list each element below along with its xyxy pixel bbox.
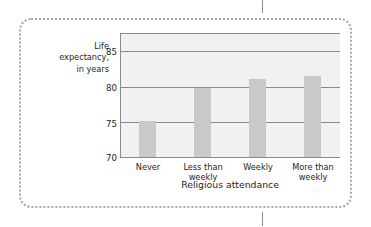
- plot-area: [120, 33, 340, 158]
- crop-mark-bottom: [262, 212, 263, 226]
- bar-chart: Life expectancy, in years 85 80 75 70 Ne…: [19, 18, 352, 208]
- bar-weekly: [249, 79, 266, 157]
- bar-more-than-weekly: [304, 76, 321, 157]
- y-tick-label-85: 85: [95, 48, 117, 57]
- gridline-85: [120, 51, 340, 52]
- bar-never: [139, 121, 156, 157]
- y-tick-label-70: 70: [95, 154, 117, 163]
- y-axis-title: Life expectancy, in years: [33, 41, 109, 75]
- bar-less-than-weekly: [194, 88, 211, 157]
- crop-mark-top: [262, 0, 263, 13]
- x-tick-label-weekly: Weekly: [230, 162, 286, 172]
- x-tick-label-never: Never: [120, 162, 176, 172]
- x-axis-title: Religious attendance: [120, 179, 340, 190]
- y-tick-label-75: 75: [95, 120, 117, 129]
- y-tick-label-80: 80: [95, 84, 117, 93]
- x-axis-line: [120, 157, 340, 158]
- plot-top-rule: [120, 33, 340, 34]
